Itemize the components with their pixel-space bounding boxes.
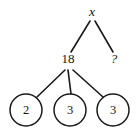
edge-root-to-right-child — [95, 21, 113, 52]
leaf-node-label-3: 3 — [110, 103, 116, 117]
edge-root-to-left-child — [71, 21, 90, 52]
leaf-node-label-2: 3 — [67, 103, 73, 117]
edge-left-child-to-leaf-2 — [68, 70, 71, 94]
edge-left-child-to-leaf-3 — [73, 70, 103, 97]
factor-tree-diagram: x 18 ? 2 3 3 — [0, 0, 138, 134]
edge-left-child-to-leaf-1 — [37, 70, 65, 97]
leaf-node-label-1: 2 — [23, 103, 29, 117]
root-node-label: x — [88, 4, 95, 19]
factor-tree-canvas: x 18 ? 2 3 3 — [0, 0, 138, 134]
left-child-node-label: 18 — [62, 51, 75, 66]
right-child-node-label: ? — [111, 51, 118, 66]
